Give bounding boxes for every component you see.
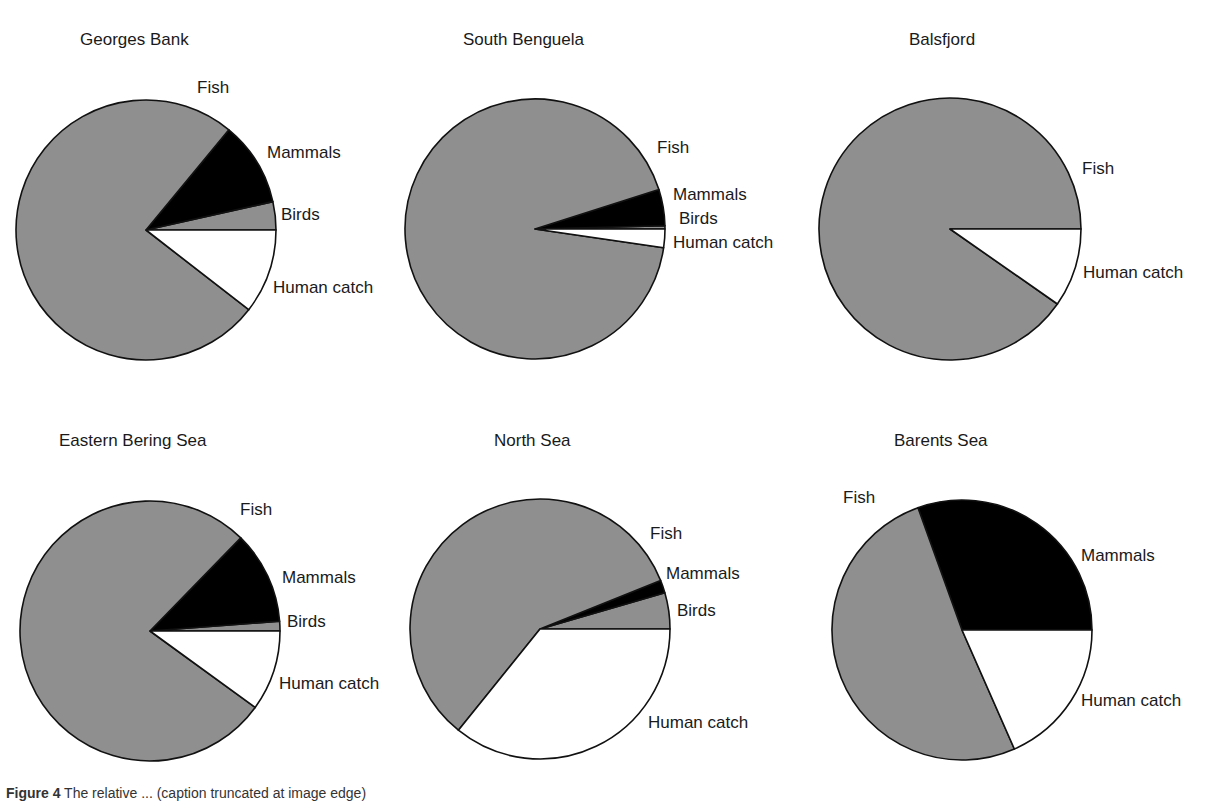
panel-title: South Benguela (463, 30, 584, 50)
pie-barents-sea (832, 500, 1092, 760)
caption-text: The relative ... (caption truncated at i… (64, 785, 366, 801)
label-mammals: Mammals (673, 185, 747, 205)
label-human-catch: Human catch (673, 233, 773, 253)
label-mammals: Mammals (1081, 546, 1155, 566)
label-human-catch: Human catch (648, 713, 748, 733)
label-birds: Birds (281, 205, 320, 225)
figure-caption: Figure 4 The relative ... (caption trunc… (6, 785, 366, 801)
label-human-catch: Human catch (1083, 263, 1183, 283)
label-birds: Birds (287, 612, 326, 632)
label-mammals: Mammals (282, 568, 356, 588)
panel-title: Barents Sea (894, 431, 988, 451)
panel-title: Eastern Bering Sea (59, 431, 206, 451)
panel-title: Georges Bank (80, 30, 189, 50)
label-fish: Fish (657, 138, 689, 158)
label-fish: Fish (240, 500, 272, 520)
label-fish: Fish (197, 78, 229, 98)
label-fish: Fish (650, 524, 682, 544)
label-human-catch: Human catch (273, 278, 373, 298)
pie-georges-bank (16, 100, 276, 360)
label-mammals: Mammals (267, 143, 341, 163)
pie-north-sea (410, 499, 670, 759)
label-birds: Birds (679, 209, 718, 229)
panel-title: North Sea (494, 431, 571, 451)
caption-label: Figure 4 (6, 785, 60, 801)
label-human-catch: Human catch (1081, 691, 1181, 711)
pie-south-benguela (405, 99, 665, 359)
label-birds: Birds (677, 601, 716, 621)
label-fish: Fish (1082, 159, 1114, 179)
pie-balsfjord (819, 98, 1081, 360)
panel-title: Balsfjord (909, 30, 975, 50)
label-human-catch: Human catch (279, 674, 379, 694)
label-mammals: Mammals (666, 564, 740, 584)
label-fish: Fish (843, 488, 875, 508)
pie-eastern-bering-sea (20, 501, 280, 761)
